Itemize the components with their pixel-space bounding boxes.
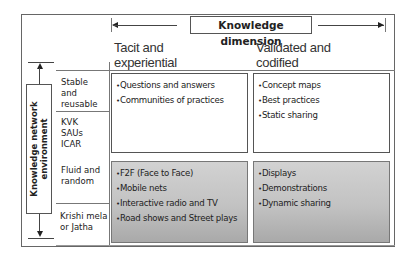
row-label-fluid-line1: Fluid and xyxy=(61,165,100,176)
cell-item: F2F (Face to Face) xyxy=(116,166,247,181)
knowledge-network-environment-label-box: Knowledge network environment xyxy=(26,84,52,214)
cell-item: Demonstrations xyxy=(258,181,389,196)
cell-stable-codified: Concept maps Best practices Static shari… xyxy=(253,73,390,153)
knowledge-network-environment-label: Knowledge network environment xyxy=(29,84,49,214)
column-header-codified-line2: codified xyxy=(256,55,331,70)
vertical-arrow-bottom-line xyxy=(39,214,40,232)
cell-item: Mobile nets xyxy=(116,181,247,196)
arrow-up-icon xyxy=(37,63,43,69)
cell-item: Dynamic sharing xyxy=(258,196,389,211)
arrow-right-icon xyxy=(378,22,384,28)
row-label-fluid: Fluid and random xyxy=(61,165,100,187)
label-column-divider xyxy=(109,62,110,247)
column-header-codified: Validated and codified xyxy=(256,40,331,70)
cell-item: Static sharing xyxy=(258,108,389,123)
row-sublabel-krishi-mela: Krishi mela xyxy=(60,211,107,222)
column-header-tacit-line2: experiential xyxy=(114,55,177,70)
row-sublabel-stable: KVK SAUs ICAR xyxy=(61,117,83,150)
knowledge-dimension-title: Knowledge dimension xyxy=(190,16,312,34)
row-sublabel-kvk: KVK xyxy=(61,117,83,128)
cell-fluid-tacit: F2F (Face to Face) Mobile nets Interacti… xyxy=(111,161,248,243)
cell-fluid-codified: Displays Demonstrations Dynamic sharing xyxy=(253,161,390,243)
bottom-shadow-line xyxy=(56,245,395,246)
vertical-arrow-top-line xyxy=(39,68,40,84)
cell-item: Communities of practices xyxy=(116,93,247,108)
cell-item: Road shows and Street plays xyxy=(116,211,247,226)
cell-item: Concept maps xyxy=(258,78,389,93)
cell-item: Questions and answers xyxy=(116,78,247,93)
row-label-stable-line3: reusable xyxy=(61,99,98,110)
column-header-tacit: Tacit and experiential xyxy=(114,40,177,70)
vertical-title-line1: Knowledge network xyxy=(29,84,39,214)
vertical-arrow-bottom-tick xyxy=(28,238,54,239)
row-label-stable-line2: and xyxy=(61,88,98,99)
cell-stable-tacit: Questions and answers Communities of pra… xyxy=(111,73,248,153)
dimension-arrow-right-line xyxy=(318,25,384,26)
row-sublabel-fluid: Krishi mela or Jatha xyxy=(60,211,107,233)
cell-item: Best practices xyxy=(258,93,389,108)
arrow-down-icon xyxy=(37,231,43,237)
row-label-fluid-line2: random xyxy=(61,176,100,187)
row-sublabel-jatha: or Jatha xyxy=(60,222,107,233)
header-divider xyxy=(56,70,395,71)
vertical-title-line2: environment xyxy=(39,84,49,214)
cell-item: Displays xyxy=(258,166,389,181)
cell-item: Interactive radio and TV xyxy=(116,196,247,211)
row-label-stable: Stable and reusable xyxy=(61,77,98,110)
row-divider-2 xyxy=(56,203,109,204)
column-header-tacit-line1: Tacit and xyxy=(114,40,177,55)
dimension-arrow-left-line xyxy=(113,25,177,26)
row-divider-1 xyxy=(56,111,109,112)
row-sublabel-icar: ICAR xyxy=(61,139,83,150)
dimension-arrow-right-tick xyxy=(385,18,386,32)
column-header-codified-line1: Validated and xyxy=(256,40,331,55)
row-sublabel-saus: SAUs xyxy=(61,128,83,139)
row-label-stable-line1: Stable xyxy=(61,77,98,88)
